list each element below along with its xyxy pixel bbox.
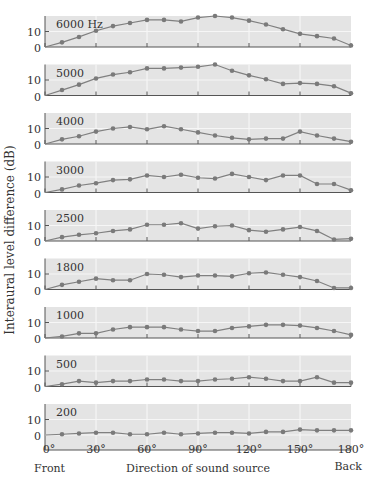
- data-point: [281, 272, 286, 277]
- data-point: [213, 329, 218, 334]
- panel-label: 1800: [56, 261, 84, 274]
- data-point: [264, 22, 269, 27]
- data-point: [264, 178, 269, 183]
- data-point: [60, 187, 65, 192]
- data-point: [179, 127, 184, 132]
- y-tick-label-0: 0: [34, 91, 41, 104]
- data-point: [264, 270, 269, 275]
- data-point: [145, 173, 150, 178]
- y-tick-label-0: 0: [34, 236, 41, 249]
- data-point: [247, 375, 252, 380]
- data-point: [264, 430, 269, 435]
- data-point: [332, 286, 337, 291]
- data-point: [298, 173, 303, 178]
- panel-label: 4000: [56, 115, 84, 128]
- data-point: [332, 428, 337, 433]
- data-point: [332, 84, 337, 89]
- data-point: [94, 129, 99, 134]
- data-point: [128, 432, 133, 437]
- data-point: [179, 432, 184, 437]
- data-point: [94, 430, 99, 435]
- data-point: [60, 432, 65, 437]
- data-point: [332, 36, 337, 41]
- data-point: [111, 327, 116, 332]
- y-tick-label-10: 10: [27, 220, 41, 233]
- data-point: [111, 72, 116, 77]
- data-point: [230, 15, 235, 20]
- data-point: [213, 14, 218, 19]
- panel-500: 100500: [27, 356, 353, 395]
- data-point: [94, 28, 99, 33]
- y-tick-label-10: 10: [27, 365, 41, 378]
- data-point: [128, 227, 133, 232]
- data-point: [298, 379, 303, 384]
- data-point: [145, 66, 150, 71]
- data-point: [349, 43, 354, 48]
- data-point: [230, 274, 235, 279]
- panel-label: 1000: [56, 309, 84, 322]
- x-tick-label: 90°: [188, 443, 208, 456]
- panel-label: 3000: [56, 164, 84, 177]
- y-tick-label-0: 0: [34, 430, 41, 443]
- data-point: [247, 431, 252, 436]
- data-point: [162, 175, 167, 180]
- data-point: [128, 278, 133, 283]
- data-point: [111, 430, 116, 435]
- data-point: [315, 326, 320, 331]
- data-point: [349, 333, 354, 338]
- data-point: [332, 329, 337, 334]
- data-point: [179, 65, 184, 70]
- data-point: [111, 379, 116, 384]
- data-point: [349, 91, 354, 96]
- data-point: [349, 139, 354, 144]
- data-point: [332, 380, 337, 385]
- data-point: [145, 377, 150, 382]
- data-point: [179, 19, 184, 24]
- data-point: [298, 275, 303, 280]
- data-point: [264, 323, 269, 328]
- x-tick-label: 120°: [236, 443, 263, 456]
- data-point: [349, 188, 354, 193]
- data-point: [247, 18, 252, 23]
- data-point: [60, 235, 65, 240]
- data-point: [111, 278, 116, 283]
- data-point: [264, 229, 269, 234]
- data-point: [349, 428, 354, 433]
- data-point: [196, 15, 201, 20]
- panel-label: 5000: [56, 67, 84, 80]
- data-point: [298, 81, 303, 86]
- data-point: [77, 82, 82, 87]
- y-tick-label-10: 10: [27, 268, 41, 281]
- panel-6000: 1006000 Hz: [27, 14, 353, 55]
- data-point: [298, 427, 303, 432]
- front-label: Front: [34, 462, 66, 475]
- data-point: [315, 428, 320, 433]
- data-point: [145, 432, 150, 437]
- panel-3000: 1003000: [27, 162, 353, 201]
- y-tick-label-10: 10: [27, 123, 41, 136]
- panel-2500: 1002500: [27, 210, 353, 249]
- panel-label: 500: [56, 358, 77, 371]
- data-point: [128, 125, 133, 130]
- data-point: [349, 236, 354, 241]
- data-point: [196, 65, 201, 70]
- data-point: [247, 137, 252, 142]
- data-point: [213, 62, 218, 67]
- data-point: [315, 229, 320, 234]
- data-point: [298, 225, 303, 230]
- data-point: [111, 24, 116, 29]
- data-point: [60, 137, 65, 142]
- data-point: [179, 275, 184, 280]
- data-point: [213, 377, 218, 382]
- data-point: [77, 233, 82, 238]
- y-tick-label-0: 0: [34, 285, 41, 298]
- data-point: [213, 176, 218, 181]
- data-point: [196, 273, 201, 278]
- data-point: [77, 279, 82, 284]
- x-tick-label: 60°: [137, 443, 157, 456]
- data-point: [332, 182, 337, 187]
- y-tick-label-0: 0: [34, 139, 41, 152]
- data-point: [94, 331, 99, 336]
- data-point: [281, 27, 286, 32]
- panel-label: 200: [56, 406, 77, 419]
